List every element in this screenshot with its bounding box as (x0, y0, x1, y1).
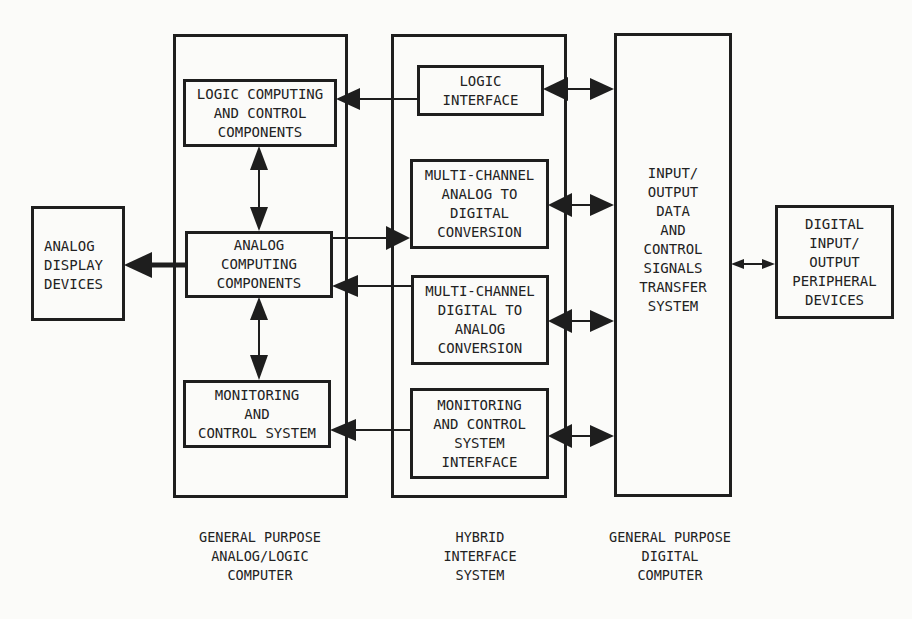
io-transfer-system-block: INPUT/ OUTPUT DATA AND CONTROL SIGNALS T… (614, 33, 732, 497)
monitor-interface-block: MONITORING AND CONTROL SYSTEM INTERFACE (410, 388, 549, 479)
analog-computing-block: ANALOG COMPUTING COMPONENTS (185, 231, 333, 298)
hybrid-interface-caption: HYBRID INTERFACE SYSTEM (380, 528, 580, 585)
monitoring-control-block: MONITORING AND CONTROL SYSTEM (183, 380, 331, 448)
hybrid-computer-block-diagram: ANALOG DISPLAY DEVICES LOGIC COMPUTING A… (0, 0, 912, 619)
digital-peripherals-block: DIGITAL INPUT/ OUTPUT PERIPHERAL DEVICES (775, 205, 894, 319)
adc-block: MULTI-CHANNEL ANALOG TO DIGITAL CONVERSI… (410, 159, 549, 249)
digital-computer-caption: GENERAL PURPOSE DIGITAL COMPUTER (570, 528, 770, 585)
logic-interface-block: LOGIC INTERFACE (417, 65, 544, 116)
analog-display-devices-block: ANALOG DISPLAY DEVICES (31, 206, 125, 321)
dac-block: MULTI-CHANNEL DIGITAL TO ANALOG CONVERSI… (411, 275, 549, 365)
analog-computer-caption: GENERAL PURPOSE ANALOG/LOGIC COMPUTER (160, 528, 360, 585)
logic-computing-block: LOGIC COMPUTING AND CONTROL COMPONENTS (183, 79, 337, 147)
